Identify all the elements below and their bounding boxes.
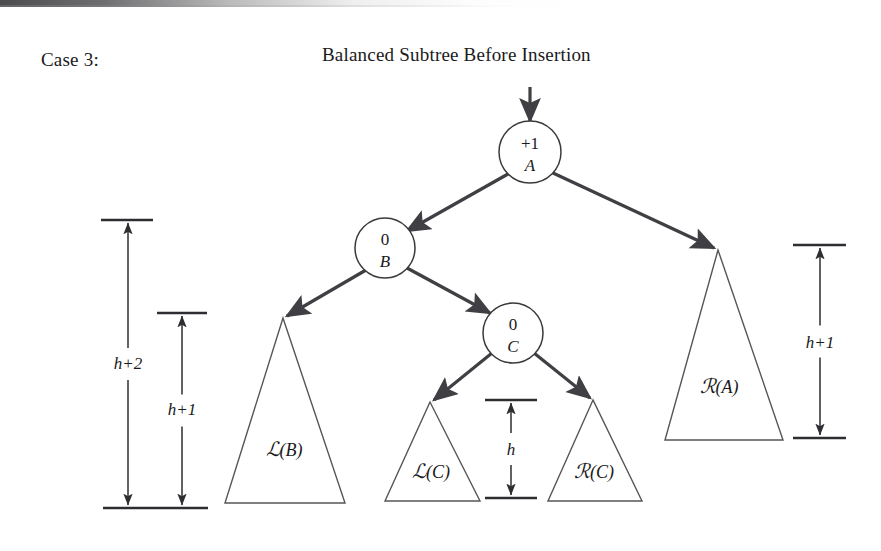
node-balance-factor-A: +1	[521, 134, 539, 153]
subtree-label-R-of-C: ℛ(C)	[574, 460, 614, 483]
subtree-R-of-C: ℛ(C)	[548, 400, 642, 501]
tree-node-B: 0B	[355, 218, 415, 278]
node-balance-factor-B: 0	[381, 230, 390, 249]
subtree-label-L-of-B: ℒ(B)	[266, 438, 303, 461]
subtree-triangle-R-of-C	[548, 400, 642, 501]
measurement-label-height-h: h	[507, 440, 516, 459]
tree-edge-A-to-R-of-A	[553, 173, 714, 248]
measurement-height-h: h	[485, 400, 537, 498]
subtree-triangle-L-of-B	[225, 318, 345, 503]
tree-node-C: 0C	[483, 303, 543, 363]
subtree-label-L-of-C: ℒ(C)	[412, 460, 450, 483]
tree-nodes-group: +1A0B0C	[355, 121, 561, 363]
tree-edge-C-to-L-of-C	[434, 353, 492, 400]
node-balance-factor-C: 0	[509, 315, 518, 334]
subtree-triangle-R-of-A	[665, 250, 783, 440]
measurement-height-h-plus-2: h+2	[101, 220, 208, 508]
tree-diagram-canvas: ℒ(B)ℒ(C)ℛ(C)ℛ(A) +1A0B0C h+2h+1hh+1	[0, 0, 881, 551]
tree-node-A: +1A	[499, 121, 561, 183]
tree-edge-A-to-B	[407, 174, 508, 231]
subtree-triangles-group: ℒ(B)ℒ(C)ℛ(C)ℛ(A)	[225, 250, 783, 503]
node-key-B: B	[380, 252, 391, 271]
measurement-label-height-h-plus-1-right: h+1	[806, 333, 834, 352]
node-key-A: A	[524, 156, 536, 175]
diagram-page: Case 3: Balanced Subtree Before Insertio…	[0, 0, 881, 551]
node-key-C: C	[507, 337, 519, 356]
tree-edge-B-to-L-of-B	[287, 270, 366, 316]
tree-edge-B-to-C	[407, 268, 490, 313]
subtree-L-of-C: ℒ(C)	[385, 402, 480, 501]
tree-edge-C-to-R-of-C	[534, 353, 590, 398]
subtree-label-R-of-A: ℛ(A)	[700, 375, 739, 398]
measurement-height-h-plus-1-left: h+1	[157, 313, 207, 505]
subtree-L-of-B: ℒ(B)	[225, 318, 345, 503]
subtree-R-of-A: ℛ(A)	[665, 250, 783, 440]
measurement-label-height-h-plus-1-left: h+1	[168, 400, 196, 419]
measurement-label-height-h-plus-2: h+2	[114, 354, 143, 373]
subtree-triangle-L-of-C	[385, 402, 480, 501]
measurement-height-h-plus-1-right: h+1	[793, 245, 846, 438]
